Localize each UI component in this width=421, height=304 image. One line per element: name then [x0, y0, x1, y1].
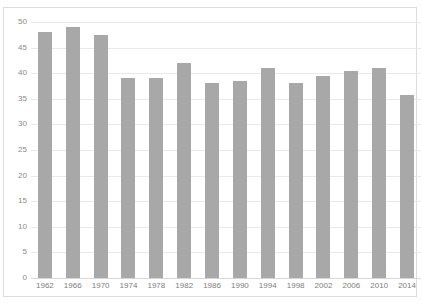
bar: [233, 81, 247, 278]
bar-group: 2014: [393, 22, 421, 278]
x-axis-tick-label: 1998: [287, 282, 305, 290]
bar-group: 1962: [31, 22, 59, 278]
x-axis-tick-label: 2010: [370, 282, 388, 290]
bar-group: 1966: [59, 22, 87, 278]
bar: [121, 78, 135, 278]
gridline-0: 0: [31, 278, 421, 279]
x-axis-tick-label: 1974: [120, 282, 138, 290]
bar: [372, 68, 386, 278]
y-axis-tick-label: 40: [18, 69, 27, 77]
bar-group: 1974: [115, 22, 143, 278]
chart-screenshot: 50454035302520151050 1962196619701974197…: [0, 0, 421, 304]
y-axis-tick-label: 0: [23, 274, 27, 282]
y-axis-tick-label: 30: [18, 120, 27, 128]
y-axis-tick-label: 5: [23, 248, 27, 256]
x-axis-tick-label: 1982: [175, 282, 193, 290]
chart-frame: 50454035302520151050 1962196619701974197…: [3, 7, 417, 297]
y-axis-tick-label: 25: [18, 146, 27, 154]
bar: [344, 71, 358, 278]
bar: [66, 27, 80, 278]
bar: [38, 32, 52, 278]
chart-title: [0, 0, 421, 3]
bar-group: 1986: [198, 22, 226, 278]
bar: [205, 83, 219, 278]
x-axis-tick-label: 2002: [315, 282, 333, 290]
y-axis-tick-label: 45: [18, 44, 27, 52]
bar-group: 1998: [282, 22, 310, 278]
bar: [261, 68, 275, 278]
y-axis-tick-label: 20: [18, 172, 27, 180]
x-axis-tick-label: 2014: [398, 282, 416, 290]
bar-group: 2006: [337, 22, 365, 278]
bar: [149, 78, 163, 278]
y-axis-tick-label: 10: [18, 223, 27, 231]
bar-series: 1962196619701974197819821986199019941998…: [31, 22, 421, 278]
bar-group: 1994: [254, 22, 282, 278]
x-axis-tick-label: 2006: [342, 282, 360, 290]
x-axis-tick-label: 1970: [92, 282, 110, 290]
y-axis-tick-label: 50: [18, 18, 27, 26]
bar-group: 2010: [365, 22, 393, 278]
x-axis-tick-label: 1986: [203, 282, 221, 290]
bar: [316, 76, 330, 278]
bar-group: 1982: [170, 22, 198, 278]
bar-group: 1970: [87, 22, 115, 278]
bar: [94, 35, 108, 278]
bar-group: 1978: [142, 22, 170, 278]
bar-group: 1990: [226, 22, 254, 278]
plot-area: 50454035302520151050 1962196619701974197…: [31, 22, 421, 286]
x-axis-tick-label: 1990: [231, 282, 249, 290]
bar-group: 2002: [310, 22, 338, 278]
y-axis-tick-label: 15: [18, 197, 27, 205]
bar: [177, 63, 191, 278]
x-axis-tick-label: 1962: [36, 282, 54, 290]
x-axis-tick-label: 1966: [64, 282, 82, 290]
x-axis-tick-label: 1978: [147, 282, 165, 290]
x-axis-tick-label: 1994: [259, 282, 277, 290]
bar: [289, 83, 303, 278]
bar: [400, 95, 414, 278]
y-axis-tick-label: 35: [18, 95, 27, 103]
